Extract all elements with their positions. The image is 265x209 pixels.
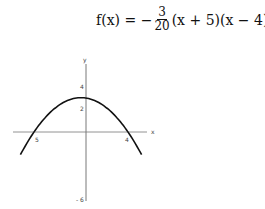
y-tick-2: 2 [80, 105, 84, 112]
x-tick-neg5: 5 [35, 136, 39, 143]
x-tick-4: 4 [125, 136, 129, 143]
y-axis-label: y [83, 56, 87, 64]
parabola-chart: y x 4 2 - 6 5 4 [0, 0, 265, 209]
x-axis-label: x [151, 128, 155, 135]
y-tick-4: 4 [80, 83, 84, 90]
y-tick-neg6: - 6 [76, 196, 84, 203]
